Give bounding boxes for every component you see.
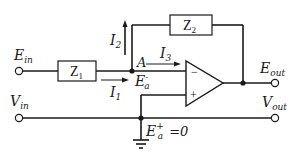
opamp: − + [186, 61, 223, 106]
arrow-i2-icon [123, 20, 128, 55]
arrow-i3-icon [146, 62, 181, 67]
terminal-eout [271, 79, 278, 86]
ground-icon [133, 140, 149, 148]
terminal-vin [15, 114, 22, 121]
circuit-diagram: Z1 Z2 − + Ein Vin Eout Vout I2 I1 I3 A E… [0, 0, 296, 166]
impedance-z2: Z2 [170, 15, 212, 35]
node-ground-dot [138, 115, 143, 120]
opamp-minus-sign: − [191, 65, 198, 79]
opamp-plus-sign: + [190, 88, 197, 102]
label-node-a: A [136, 55, 146, 70]
terminal-vout [271, 114, 278, 121]
label-ea-minus: E-a [134, 72, 150, 91]
terminal-ein [15, 67, 22, 74]
label-ein: Ein [13, 47, 33, 65]
node-a-dot [129, 68, 134, 73]
label-vout: Vout [262, 94, 287, 112]
label-vin: Vin [10, 93, 29, 111]
label-i2: I2 [109, 32, 122, 50]
label-i1: I1 [109, 84, 121, 102]
label-i3: I3 [159, 45, 172, 63]
arrow-i1-icon [101, 78, 129, 83]
node-output-dot [240, 80, 245, 85]
label-ea-plus: E+a=0 [145, 121, 188, 141]
impedance-z1: Z1 [58, 61, 96, 81]
label-eout: Eout [259, 60, 285, 78]
